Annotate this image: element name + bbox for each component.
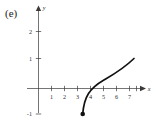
y-tick-label-1: 1 [29,55,32,62]
y-axis-label: y [42,4,46,11]
x-tick-label-3: 3 [76,93,79,100]
y-axis-arrow-icon [36,6,41,12]
x-tick-label-1: 1 [50,93,53,100]
x-tick-label-7: 7 [128,93,131,100]
curve-endpoint-dot [80,112,85,117]
x-tick-label-6: 6 [115,93,118,100]
x-tick-label-5: 5 [102,93,105,100]
y-tick-label-neg1: -1 [27,110,32,117]
x-axis-arrow-icon [140,86,146,91]
x-tick-label-2: 2 [63,93,66,100]
coordinate-plot: 1 2 3 4 5 6 7 1 2 -1 x y [0,0,161,139]
figure-panel: (e) 1 2 3 4 5 6 7 1 2 -1 x y [0,0,161,139]
x-axis-label: x [147,85,151,92]
y-tick-label-2: 2 [29,28,32,35]
